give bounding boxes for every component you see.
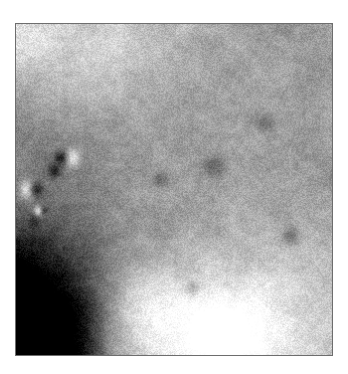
- caption-sliver: ·: [0, 0, 348, 14]
- planetary-surface-image: [16, 24, 332, 355]
- caption-text: ·: [58, 0, 61, 3]
- planetary-surface-image-frame: [15, 23, 333, 356]
